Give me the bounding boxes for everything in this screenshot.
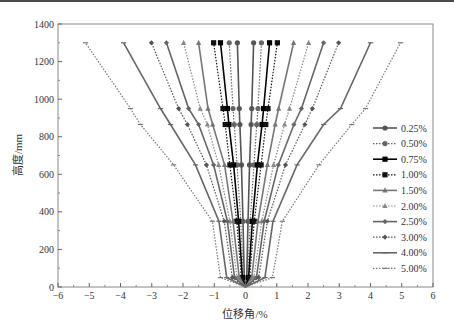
plot-border [58, 24, 433, 287]
x-tick-label: −3 [146, 290, 157, 301]
drift-profile-chart: −6−5−4−3−2−10123456020040060080010001200… [0, 0, 454, 330]
legend-label: 3.00% [401, 232, 427, 243]
y-tick-label: 600 [39, 169, 54, 180]
x-tick-label: −2 [178, 290, 189, 301]
x-tick-label: 1 [274, 290, 279, 301]
x-tick-label: −4 [115, 290, 126, 301]
legend-label: 2.00% [401, 201, 427, 212]
y-tick-label: 200 [39, 244, 54, 255]
legend-item: 0.50% [373, 138, 427, 149]
legend-label: 0.25% [401, 123, 427, 134]
series-1_50pct [196, 40, 296, 287]
y-axis-title: 高度/mm [11, 133, 24, 176]
x-tick-label: 2 [306, 290, 311, 301]
x-tick-label: −6 [53, 290, 64, 301]
legend-item: 3.00% [373, 232, 427, 243]
series-layer [83, 40, 403, 287]
legend-item: 0.25% [373, 123, 427, 134]
legend-label: 5.00% [401, 263, 427, 274]
y-tick-label: 0 [49, 282, 54, 293]
y-tick-label: 1400 [34, 19, 54, 30]
legend: 0.25%0.50%0.75%1.00%1.50%2.00%2.50%3.00%… [373, 123, 427, 274]
x-tick-label: 4 [368, 290, 373, 301]
y-tick-label: 1000 [34, 94, 54, 105]
y-tick-label: 400 [39, 206, 54, 217]
legend-item: 1.50% [373, 185, 427, 196]
legend-item: 0.75% [373, 154, 427, 165]
legend-label: 1.00% [401, 169, 427, 180]
x-tick-label: 3 [337, 290, 342, 301]
legend-item: 2.50% [373, 216, 427, 227]
legend-item: 2.00% [373, 201, 427, 212]
legend-item: 1.00% [373, 169, 427, 180]
legend-label: 2.50% [401, 216, 427, 227]
x-tick-label: −5 [84, 290, 95, 301]
legend-item: 4.00% [373, 247, 427, 258]
series-2_50pct [164, 40, 326, 287]
legend-label: 4.00% [401, 247, 427, 258]
legend-label: 1.50% [401, 185, 427, 196]
legend-label: 0.75% [401, 154, 427, 165]
y-tick-label: 800 [39, 131, 54, 142]
y-tick-label: 1200 [34, 56, 54, 67]
legend-item: 5.00% [373, 263, 427, 274]
x-axis-title: 位移角/% [222, 307, 267, 320]
x-tick-label: −1 [209, 290, 220, 301]
x-tick-label: 5 [399, 290, 404, 301]
x-tick-label: 6 [431, 290, 436, 301]
legend-label: 0.50% [401, 138, 427, 149]
x-tick-label: 0 [243, 290, 248, 301]
series-2_00pct [181, 40, 311, 287]
plot-frame [58, 24, 433, 287]
series-0_75pct [218, 40, 272, 287]
